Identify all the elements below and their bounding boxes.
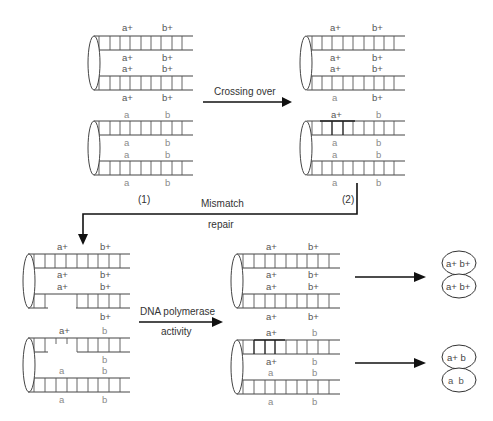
allele-label: b xyxy=(165,177,170,188)
allele-label: a xyxy=(124,109,130,120)
allele-label: a+ xyxy=(330,52,341,63)
m1-bottom-centromere-end xyxy=(88,121,100,175)
allele-label: b+ xyxy=(100,269,111,280)
allele-label: a+ xyxy=(330,22,341,33)
allele-label: b xyxy=(165,137,170,148)
segregation-arrow-bottom xyxy=(355,358,426,368)
allele-label: a+ xyxy=(122,52,133,63)
allele-label: a xyxy=(124,149,130,160)
m1-chromatid-bottom: a b a b a b a b xyxy=(88,109,193,188)
m2-chromatid-top: a+ b+ a+ b+ a+ b+ a b+ xyxy=(300,22,405,103)
m3-chromatid-bottom: a+ b b a b a b xyxy=(23,325,130,405)
dna-polymerase-arrow: DNA polymerase activity xyxy=(139,306,223,337)
allele-label: b xyxy=(376,149,381,160)
mismatch-label: Mismatch xyxy=(201,198,244,209)
molecule-4-after-resynthesis: a+ b+ a+ b+ a+ b+ a+ b+ xyxy=(231,241,340,407)
allele-label: b+ xyxy=(372,52,383,63)
allele-label: a+ xyxy=(122,22,133,33)
products-top: a+ b+ a+ b+ xyxy=(442,251,476,298)
allele-label: b+ xyxy=(372,63,383,74)
m1-top-rungs-duplex2 xyxy=(99,76,182,90)
allele-label: a+ xyxy=(57,281,68,292)
allele-label: a xyxy=(332,177,338,188)
allele-label: a xyxy=(59,365,65,376)
allele-label: b+ xyxy=(100,241,111,252)
allele-label: a xyxy=(332,92,338,103)
allele-label: a xyxy=(124,177,130,188)
allele-label: b+ xyxy=(100,281,111,292)
mismatch-repair-arrow: Mismatch repair xyxy=(78,183,357,245)
products-bottom: a+ b a b xyxy=(442,345,476,392)
molecule-1-before-crossover: a+ b+ a+ b+ a+ b+ a+ b+ xyxy=(88,22,193,205)
allele-label: a xyxy=(332,149,338,160)
allele-label: a+ xyxy=(57,269,68,280)
repair-label: repair xyxy=(208,219,234,230)
genotype-label: a+ b xyxy=(447,352,466,363)
allele-label: b xyxy=(312,356,317,367)
allele-label: a+ xyxy=(266,241,277,252)
allele-label: b xyxy=(102,394,107,405)
allele-label: a xyxy=(124,137,130,148)
allele-label: a xyxy=(332,137,338,148)
m3-bottom-centromere-end xyxy=(23,338,35,392)
molecule-3-after-mismatch-excision: a+ b+ a+ b+ a+ b+ b+ xyxy=(23,241,130,405)
molecule-2-after-crossover: a+ b+ a+ b+ a+ b+ a b+ xyxy=(300,22,405,205)
m4-bottom-centromere-end xyxy=(231,340,243,394)
allele-label: b xyxy=(102,365,107,376)
m3-top-centromere-end xyxy=(23,254,35,308)
allele-label: b+ xyxy=(162,52,173,63)
m2-bottom-rungs xyxy=(312,121,394,175)
allele-label: b xyxy=(312,396,317,407)
allele-label: a+ xyxy=(330,63,341,74)
allele-label: a+ xyxy=(266,269,277,280)
allele-label: b+ xyxy=(162,22,173,33)
allele-label: b+ xyxy=(162,92,173,103)
allele-label: b xyxy=(165,109,170,120)
allele-label: b+ xyxy=(100,311,111,322)
allele-label: a xyxy=(59,394,65,405)
allele-label: a+ xyxy=(122,63,133,74)
allele-label: a+ xyxy=(57,241,68,252)
m3-chromatid-top: a+ b+ a+ b+ a+ b+ b+ xyxy=(23,241,130,322)
m1-chromatid-top: a+ b+ a+ b+ a+ b+ a+ b+ xyxy=(88,22,193,103)
allele-label: b+ xyxy=(372,22,383,33)
allele-label: b xyxy=(102,325,107,336)
m4-chromatid-bottom: a+ b a+ b a b a b xyxy=(231,327,340,407)
stage-1-label: (1) xyxy=(138,194,150,205)
m4-top-centromere-end xyxy=(231,254,243,308)
m1-top-rungs-duplex1 xyxy=(99,36,182,50)
allele-label: a+ xyxy=(122,92,133,103)
crossing-over-arrow: Crossing over xyxy=(203,86,292,107)
allele-label: a+ xyxy=(331,109,342,120)
genotype-label: a+ b+ xyxy=(446,258,471,269)
dna-polymerase-label: DNA polymerase xyxy=(140,306,215,317)
allele-label: b+ xyxy=(372,92,383,103)
crossing-over-label: Crossing over xyxy=(214,86,276,97)
m2-bottom-centromere-end xyxy=(300,121,312,175)
genotype-label: a b xyxy=(448,375,464,386)
m2-chromatid-bottom: a+ b a b a b a b xyxy=(300,109,405,188)
allele-label: a+ xyxy=(266,356,277,367)
m1-bottom-rungs xyxy=(99,121,182,175)
allele-label: a+ xyxy=(266,311,277,322)
allele-label: b xyxy=(312,327,317,338)
m4-chromatid-top: a+ b+ a+ b+ a+ b+ a+ b+ xyxy=(231,241,340,322)
allele-label: b+ xyxy=(308,269,319,280)
allele-label: a+ xyxy=(266,281,277,292)
allele-label: b+ xyxy=(162,63,173,74)
allele-label: b xyxy=(102,354,107,365)
allele-label: b xyxy=(312,367,317,378)
genotype-label: a+ b+ xyxy=(446,281,471,292)
allele-label: b+ xyxy=(308,311,319,322)
gene-conversion-diagram: a+ b+ a+ b+ a+ b+ a+ b+ xyxy=(0,0,493,421)
allele-label: b xyxy=(165,149,170,160)
allele-label: b+ xyxy=(308,281,319,292)
allele-label: a xyxy=(268,396,274,407)
allele-label: b xyxy=(376,109,381,120)
allele-label: b xyxy=(376,177,381,188)
m1-top-centromere-end xyxy=(88,36,100,90)
stage-2-label: (2) xyxy=(342,194,354,205)
allele-label: a xyxy=(268,367,274,378)
m2-top-centromere-end xyxy=(300,36,312,90)
segregation-arrow-top xyxy=(355,272,426,282)
